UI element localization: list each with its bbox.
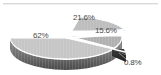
pie-chart-panel: 21.6% 15.6% 62% 0.8% — [0, 0, 161, 75]
pie-label-15-6: 15.6% — [95, 26, 117, 35]
pie-label-62: 62% — [33, 31, 48, 40]
pie-label-21-6: 21.6% — [73, 13, 95, 22]
pie-label-0-8: 0.8% — [124, 58, 141, 67]
pie-chart-graphic[interactable]: 21.6% 15.6% 62% 0.8% — [0, 0, 161, 75]
